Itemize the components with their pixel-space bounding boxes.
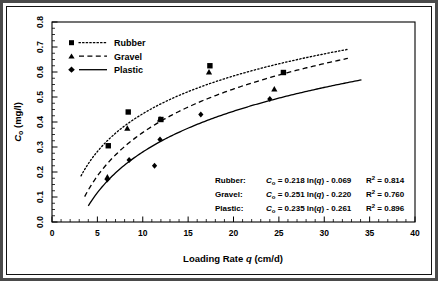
y-axis-tick-labels: 0.00.10.20.30.40.50.60.70.8	[35, 16, 45, 228]
y-tick-label: 0.8	[35, 16, 45, 28]
y-tick-label: 0.0	[35, 216, 45, 228]
x-tick-label: 30	[320, 228, 330, 238]
data-marker-square	[126, 109, 131, 114]
legend-marker-square	[69, 40, 74, 45]
x-tick-label: 25	[274, 228, 284, 238]
equation-formula-rubber: Co = 0.218 ln(q) - 0.069	[266, 176, 352, 186]
legend-label-plastic: Plastic	[114, 65, 143, 75]
y-tick-label: 0.4	[35, 116, 45, 128]
x-tick-label: 40	[410, 228, 420, 238]
equation-label-rubber: Rubber:	[215, 176, 246, 185]
x-axis-tick-labels: 0510152025303540	[50, 228, 420, 238]
equation-label-plastic: Plastic:	[215, 204, 243, 213]
x-tick-label: 15	[183, 228, 193, 238]
x-tick-label: 35	[365, 228, 375, 238]
legend-label-gravel: Gravel	[114, 52, 142, 62]
x-tick-label: 20	[229, 228, 239, 238]
equation-formula-gravel: Co = 0.251 ln(q) - 0.220	[266, 190, 352, 200]
chart-svg: 0510152025303540 0.00.10.20.30.40.50.60.…	[3, 3, 435, 278]
x-tick-label: 0	[50, 228, 55, 238]
chart-plot-area: 0510152025303540 0.00.10.20.30.40.50.60.…	[3, 3, 435, 278]
x-tick-label: 5	[95, 228, 100, 238]
equation-row-rubber: Rubber: Co = 0.218 ln(q) - 0.069 R2 = 0.…	[215, 175, 405, 186]
y-tick-label: 0.7	[35, 41, 45, 53]
equation-formula-plastic: Co = 0.235 ln(q) - 0.261	[266, 204, 352, 214]
y-tick-label: 0.6	[35, 66, 45, 78]
data-marker-square	[207, 63, 212, 68]
data-marker-square	[106, 143, 111, 148]
y-tick-label: 0.2	[35, 166, 45, 178]
y-axis-title: Co (mg/l)	[12, 102, 24, 142]
x-axis-title: Loading Rate q (cm/d)	[183, 253, 283, 264]
y-tick-label: 0.1	[35, 191, 45, 203]
legend-label-rubber: Rubber	[114, 38, 146, 48]
x-tick-label: 10	[138, 228, 148, 238]
y-tick-label: 0.5	[35, 91, 45, 103]
data-marker-square	[281, 70, 286, 75]
equation-label-gravel: Gravel:	[215, 190, 243, 199]
y-tick-label: 0.3	[35, 141, 45, 153]
figure-container: 0510152025303540 0.00.10.20.30.40.50.60.…	[0, 0, 438, 281]
